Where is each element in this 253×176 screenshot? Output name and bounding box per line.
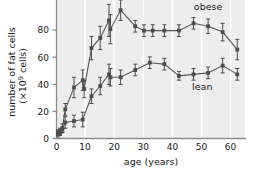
series-annotation-obese: obese — [194, 1, 223, 12]
x-tick-label-50: 50 — [196, 142, 208, 152]
fat-cell-number-vs-age-chart: 0 20 40 60 80 0 10 20 30 40 50 60 age (y… — [0, 0, 253, 176]
data-point-marker — [63, 107, 67, 111]
data-point-marker — [151, 29, 155, 33]
series-annotation-lean: lean — [192, 81, 212, 92]
data-point-marker — [192, 72, 196, 76]
y-axis-title-prefix: (×10 — [17, 80, 28, 104]
y-tick-label-20: 20 — [38, 107, 50, 117]
data-point-marker — [72, 86, 76, 90]
data-point-marker — [119, 75, 123, 79]
data-point-marker — [192, 21, 196, 25]
y-axis-title-line1: number of fat cells — [6, 27, 17, 117]
y-tick-label-60: 60 — [38, 53, 50, 63]
y-tick-label-80: 80 — [38, 25, 50, 35]
data-point-marker — [221, 30, 225, 34]
data-point-marker — [221, 64, 225, 68]
data-point-marker — [162, 62, 166, 66]
data-point-marker — [206, 24, 210, 28]
x-tick-label-30: 30 — [138, 142, 150, 152]
y-axis-title-line2: (×109 cells) — [17, 48, 28, 104]
data-point-marker — [133, 24, 137, 28]
x-tick-label-0: 0 — [54, 142, 60, 152]
data-point-marker — [63, 121, 67, 125]
y-axis-title: number of fat cells (×109 cells) — [6, 27, 28, 117]
data-point-marker — [98, 36, 102, 40]
data-point-marker — [109, 27, 113, 31]
data-point-marker — [148, 61, 152, 65]
data-point-marker — [90, 94, 94, 98]
data-point-marker — [177, 29, 181, 33]
chart-canvas: 0 20 40 60 80 0 10 20 30 40 50 60 age (y… — [0, 0, 253, 176]
y-axis-title-suffix: cells) — [17, 48, 28, 76]
x-axis-title: age (years) — [124, 156, 178, 167]
data-point-marker — [81, 118, 85, 122]
data-point-marker — [162, 29, 166, 33]
x-tick-label-20: 20 — [108, 142, 120, 152]
data-point-marker — [142, 29, 146, 33]
data-point-marker — [82, 87, 86, 91]
data-point-marker — [206, 71, 210, 75]
data-point-marker — [177, 74, 181, 78]
data-point-marker — [235, 72, 239, 76]
data-point-marker — [72, 119, 76, 123]
data-point-marker — [98, 84, 102, 88]
y-tick-label-40: 40 — [38, 80, 50, 90]
data-point-marker — [90, 46, 94, 50]
x-tick-label-40: 40 — [167, 142, 179, 152]
x-tick-label-60: 60 — [225, 142, 237, 152]
y-tick-label-0: 0 — [43, 134, 49, 144]
data-point-marker — [133, 68, 137, 72]
data-point-marker — [235, 48, 239, 52]
data-point-marker — [119, 8, 123, 12]
data-point-marker — [109, 75, 113, 79]
x-tick-label-10: 10 — [79, 142, 91, 152]
